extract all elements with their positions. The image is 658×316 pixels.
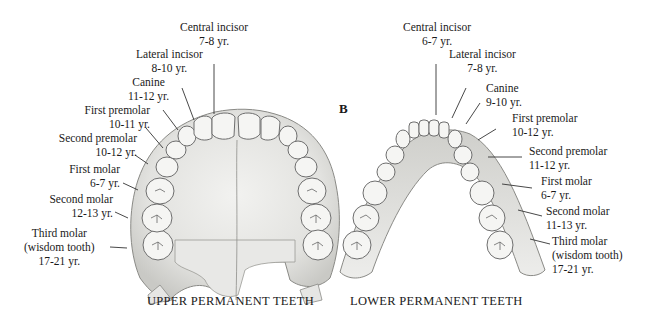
- eruption-age: 17-21 yr.: [552, 262, 623, 276]
- upper-label-lateral-incisor: Lateral incisor 8-10 yr.: [136, 47, 203, 75]
- upper-caption: UPPER PERMANENT TEETH: [147, 294, 314, 309]
- tooth-name: Lateral incisor: [136, 47, 203, 61]
- tooth-name: Third molar: [24, 226, 95, 240]
- eruption-age: 6-7 yr.: [541, 188, 592, 202]
- lower-label-third-molar: Third molar (wisdom tooth) 17-21 yr.: [552, 234, 623, 276]
- tooth-name: First molar: [69, 162, 120, 176]
- lower-label-second-molar: Second molar 11-13 yr.: [546, 204, 610, 232]
- upper-label-first-premolar: First premolar 10-11 yr.: [85, 103, 150, 131]
- tooth-name: Canine: [128, 75, 169, 89]
- eruption-age: 10-12 yr.: [512, 125, 577, 139]
- tooth-name: Canine: [486, 81, 522, 95]
- eruption-age: 6-7 yr.: [69, 176, 120, 190]
- tooth-name: Central incisor: [403, 20, 471, 34]
- lower-label-first-premolar: First premolar 10-12 yr.: [512, 111, 577, 139]
- tooth-note: (wisdom tooth): [24, 240, 95, 254]
- lower-label-lateral-incisor: Lateral incisor 7-8 yr.: [449, 47, 516, 75]
- tooth-name: Second molar: [546, 204, 610, 218]
- tooth-note: (wisdom tooth): [552, 248, 623, 262]
- lower-label-canine: Canine 9-10 yr.: [486, 81, 522, 109]
- upper-label-first-molar: First molar 6-7 yr.: [69, 162, 120, 190]
- upper-arch: [131, 109, 340, 304]
- tooth-name: Second premolar: [529, 144, 607, 158]
- tooth-name: Third molar: [552, 234, 623, 248]
- eruption-age: 11-13 yr.: [546, 218, 610, 232]
- eruption-age: 10-12 yr.: [59, 145, 137, 159]
- eruption-age: 9-10 yr.: [486, 95, 522, 109]
- lower-label-first-molar: First molar 6-7 yr.: [541, 174, 592, 202]
- eruption-age: 11-12 yr.: [529, 158, 607, 172]
- eruption-age: 10-11 yr.: [85, 117, 150, 131]
- eruption-age: 11-12 yr.: [128, 89, 169, 103]
- lower-arch: [340, 120, 545, 278]
- tooth-name: Second molar: [49, 192, 113, 206]
- lower-label-central-incisor: Central incisor 6-7 yr.: [403, 20, 471, 48]
- tooth-name: Lateral incisor: [449, 47, 516, 61]
- tooth-name: Second premolar: [59, 131, 137, 145]
- upper-label-canine: Canine 11-12 yr.: [128, 75, 169, 103]
- tooth-name: First premolar: [512, 111, 577, 125]
- tooth-name: Central incisor: [180, 20, 248, 34]
- upper-label-third-molar: Third molar (wisdom tooth) 17-21 yr.: [24, 226, 95, 268]
- lower-label-second-premolar: Second premolar 11-12 yr.: [529, 144, 607, 172]
- eruption-age: 8-10 yr.: [136, 61, 203, 75]
- lower-caption: LOWER PERMANENT TEETH: [350, 294, 523, 309]
- tooth-name: First molar: [541, 174, 592, 188]
- eruption-age: 17-21 yr.: [24, 254, 95, 268]
- panel-letter: B: [339, 101, 348, 117]
- eruption-age: 7-8 yr.: [180, 34, 248, 48]
- eruption-age: 7-8 yr.: [449, 61, 516, 75]
- upper-label-central-incisor: Central incisor 7-8 yr.: [180, 20, 248, 48]
- eruption-age: 6-7 yr.: [403, 34, 471, 48]
- eruption-age: 12-13 yr.: [49, 206, 113, 220]
- upper-label-second-molar: Second molar 12-13 yr.: [49, 192, 113, 220]
- upper-label-second-premolar: Second premolar 10-12 yr.: [59, 131, 137, 159]
- tooth-name: First premolar: [85, 103, 150, 117]
